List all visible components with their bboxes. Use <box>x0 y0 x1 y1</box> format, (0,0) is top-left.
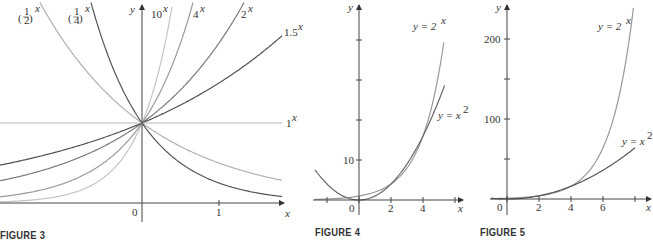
figure-5-ticks <box>504 39 635 202</box>
curve-2-x <box>0 3 244 181</box>
figure-3-y-axis-label: y <box>129 3 135 15</box>
figure-4-caption: FIGURE 4 <box>315 226 360 238</box>
svg-text:x: x <box>440 14 446 26</box>
figure-3: y x 0 1 ( 1 2 ) x ( 1 4 ) x 10 x 4 x <box>0 2 303 222</box>
curve-x-pow-2 <box>491 148 635 199</box>
svg-text:y = 2: y = 2 <box>412 20 437 32</box>
curve-4-x <box>0 3 193 197</box>
figure-3-caption: FIGURE 3 <box>0 229 45 241</box>
curve--1-4-x <box>91 3 282 197</box>
label-y-eq-2-pow-x: y = 2 x <box>412 14 446 32</box>
svg-text:x: x <box>247 2 253 14</box>
label-quarter-pow-x: ( 1 4 ) x <box>68 2 90 26</box>
figure-4-y-axis-label: y <box>347 1 353 13</box>
curve-2-pow-x <box>491 8 633 199</box>
curve-2-pow-x <box>315 42 444 199</box>
figure-4: y x 0 2 4 10 y = 2 x y = x 2 <box>313 1 469 215</box>
svg-text:(: ( <box>18 12 22 25</box>
label-y-eq-x-squared: y = x 2 <box>437 103 469 121</box>
svg-text:): ) <box>79 12 83 25</box>
label-ten-pow-x: 10 x <box>151 2 168 20</box>
svg-text:10: 10 <box>151 8 163 20</box>
svg-text:y = 2: y = 2 <box>597 20 622 32</box>
svg-text:2: 2 <box>647 129 653 141</box>
figure-5-curves <box>491 8 635 199</box>
svg-text:1.5: 1.5 <box>284 26 298 38</box>
svg-text:4: 4 <box>193 8 199 20</box>
curve-x-pow-2 <box>315 86 445 201</box>
label-y-eq-x-squared: y = x 2 <box>621 129 653 147</box>
figure-4-ticks <box>327 40 455 203</box>
figure-4-y-tick-label-10: 10 <box>343 154 355 166</box>
svg-text:x: x <box>84 2 90 14</box>
figure-3-x-axis-label: x <box>284 207 290 219</box>
curve-1-5-x <box>0 36 282 165</box>
figure-4-x-tick-label-2: 2 <box>388 202 394 214</box>
figure-5-y-tick-label-100: 100 <box>484 113 501 125</box>
svg-text:2: 2 <box>241 8 247 20</box>
figure-4-x-tick-label-4: 4 <box>420 202 426 214</box>
label-onefive-pow-x: 1.5 x <box>284 20 303 38</box>
svg-text:y = x: y = x <box>437 109 461 121</box>
figure-5: y x 0 2 4 6 100 200 y = 2 x y = x 2 <box>484 1 653 215</box>
curve-10-x <box>0 7 172 202</box>
figure-5-caption: FIGURE 5 <box>480 226 525 238</box>
figure-4-x-tick-label-0: 0 <box>349 202 355 214</box>
label-four-pow-x: 4 x <box>193 2 205 20</box>
figure-5-x-tick-label-4: 4 <box>568 201 574 213</box>
svg-text:): ) <box>29 12 33 25</box>
svg-text:x: x <box>162 2 168 14</box>
svg-text:x: x <box>34 2 40 14</box>
label-one-pow-x: 1 x <box>286 111 297 129</box>
figure-5-x-tick-label-0: 0 <box>497 201 503 213</box>
svg-text:y = x: y = x <box>621 135 645 147</box>
svg-text:x: x <box>291 111 297 123</box>
figure-3-curves <box>0 3 282 202</box>
svg-text:x: x <box>625 14 631 26</box>
svg-text:x: x <box>199 2 205 14</box>
figure-5-x-tick-label-6: 6 <box>600 201 606 213</box>
svg-text:x: x <box>297 20 303 32</box>
svg-text:(: ( <box>68 12 72 25</box>
figures-canvas: y x 0 1 ( 1 2 ) x ( 1 4 ) x 10 x 4 x <box>0 0 653 243</box>
label-half-pow-x: ( 1 2 ) x <box>18 2 40 26</box>
label-y-eq-2-pow-x: y = 2 x <box>597 14 631 32</box>
svg-text:2: 2 <box>463 103 469 115</box>
figure-5-x-tick-label-2: 2 <box>536 201 542 213</box>
figure-3-x-tick-label-1: 1 <box>216 206 222 218</box>
figure-3-x-tick-label-0: 0 <box>132 206 138 218</box>
figure-4-curves <box>315 42 445 200</box>
svg-text:1: 1 <box>286 117 292 129</box>
figure-4-x-axis-label: x <box>457 202 463 214</box>
figure-5-y-tick-label-200: 200 <box>484 33 501 45</box>
figure-5-y-axis-label: y <box>495 1 501 13</box>
figure-5-x-axis-label: x <box>645 201 651 213</box>
